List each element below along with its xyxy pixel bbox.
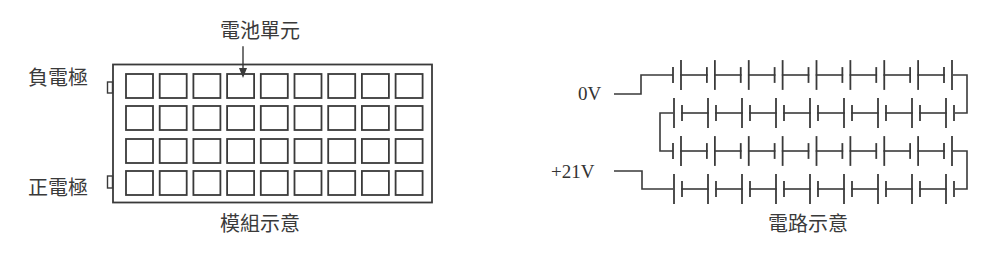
battery-cell: [126, 106, 153, 130]
battery-cell: [362, 106, 389, 130]
battery-cell: [126, 74, 153, 98]
battery-cell: [261, 74, 288, 98]
battery-cell: [295, 171, 322, 195]
left-series-link: [660, 113, 673, 151]
negative-terminal: [108, 82, 113, 93]
battery-cell: [126, 171, 153, 195]
battery-cell: [261, 139, 288, 163]
battery-cell: [227, 74, 254, 98]
battery-cell: [295, 139, 322, 163]
battery-cell: [160, 106, 187, 130]
right-series-link-top: [953, 75, 967, 113]
battery-cell: [193, 74, 220, 98]
battery-cell: [160, 139, 187, 163]
battery-cell: [295, 74, 322, 98]
battery-cell: [362, 139, 389, 163]
battery-cell: [160, 171, 187, 195]
right-series-link-bottom: [953, 151, 967, 189]
battery-cell: [362, 171, 389, 195]
diagram-graphics: [0, 0, 999, 255]
battery-cell: [328, 74, 355, 98]
battery-cell: [160, 74, 187, 98]
battery-cell: [328, 106, 355, 130]
battery-cell: [126, 139, 153, 163]
battery-cell: [193, 139, 220, 163]
battery-cell: [227, 139, 254, 163]
module-outline: [113, 65, 432, 203]
zero-volt-lead: [614, 75, 673, 94]
battery-cell: [261, 171, 288, 195]
battery-cell: [396, 106, 423, 130]
battery-cell: [193, 171, 220, 195]
battery-cell: [193, 106, 220, 130]
arrow-head-icon: [239, 68, 247, 78]
positive-terminal: [108, 176, 113, 188]
battery-cell: [328, 139, 355, 163]
battery-cell: [396, 139, 423, 163]
battery-cell: [396, 171, 423, 195]
battery-cell: [295, 106, 322, 130]
battery-cell: [362, 74, 389, 98]
battery-cell: [261, 106, 288, 130]
battery-cell: [328, 171, 355, 195]
battery-cell: [227, 106, 254, 130]
battery-cell: [227, 171, 254, 195]
plus-21-volt-lead: [614, 171, 673, 189]
battery-cell: [396, 74, 423, 98]
